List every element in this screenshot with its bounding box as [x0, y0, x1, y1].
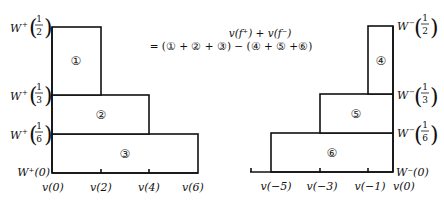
svg-text:1: 1 [36, 82, 42, 92]
y-label-w-minus-half: W − ( 1 2 ) [397, 13, 439, 40]
y-label-w-plus-sixth: W + ( 1 6 ) [10, 121, 53, 147]
svg-text:3: 3 [36, 95, 42, 105]
region-1-label: ① [71, 54, 82, 68]
x-label-v4: v(4) [138, 181, 160, 194]
y-label-w-minus-zero: W⁻(0) [396, 166, 429, 179]
svg-text:2: 2 [422, 26, 428, 36]
svg-text:2: 2 [36, 27, 42, 37]
region-3-label: ③ [120, 147, 131, 161]
x-label-v-minus5: v(−5) [260, 180, 291, 193]
x-label-v2: v(2) [90, 181, 112, 194]
region-5-label: ⑤ [351, 107, 362, 121]
svg-text:6: 6 [36, 134, 42, 144]
svg-text:): ) [44, 15, 53, 40]
svg-text:1: 1 [422, 82, 428, 92]
x-label-v0: v(0) [42, 181, 64, 194]
svg-text:+: + [22, 128, 28, 136]
x-label-v-minus3: v(−3) [306, 180, 337, 193]
svg-text:): ) [44, 83, 53, 108]
y-label-w-plus-half: W + ( 1 2 ) [10, 14, 53, 40]
region-2-label: ② [96, 108, 107, 122]
y-label-w-plus-zero: W⁺(0) [17, 166, 50, 179]
svg-text:+: + [22, 89, 28, 97]
formula-line-1: v(f⁺) + v(f⁻) [229, 27, 292, 39]
y-label-w-minus-third: W − ( 1 3 ) [397, 82, 439, 109]
svg-text:): ) [44, 122, 53, 147]
svg-text:): ) [430, 15, 439, 40]
svg-text:3: 3 [422, 95, 428, 105]
formula-line-2: = (① + ② + ③) − (④ + ⑤ +⑥) [150, 40, 313, 52]
y-label-w-minus-sixth: W − ( 1 6 ) [397, 120, 439, 147]
x-label-v-minus1: v(−1) [354, 180, 385, 193]
svg-text:1: 1 [36, 14, 42, 24]
svg-text:1: 1 [36, 121, 42, 131]
region-6-label: ⑥ [327, 146, 338, 160]
svg-text:): ) [430, 122, 439, 147]
svg-text:): ) [430, 84, 439, 109]
formula: v(f⁺) + v(f⁻) = (① + ② + ③) − (④ + ⑤ +⑥) [150, 27, 313, 52]
x-label-v6: v(6) [182, 181, 204, 194]
diagram-canvas: ① ② ③ W + ( 1 2 ) W + ( 1 3 ) W + ( 1 [0, 0, 444, 205]
x-label-v0-right: v(0) [393, 180, 415, 193]
svg-text:6: 6 [422, 133, 428, 143]
region-4-label: ④ [376, 54, 387, 68]
svg-text:1: 1 [422, 13, 428, 23]
svg-text:1: 1 [422, 120, 428, 130]
svg-text:+: + [22, 21, 28, 29]
y-label-w-plus-third: W + ( 1 3 ) [10, 82, 53, 108]
